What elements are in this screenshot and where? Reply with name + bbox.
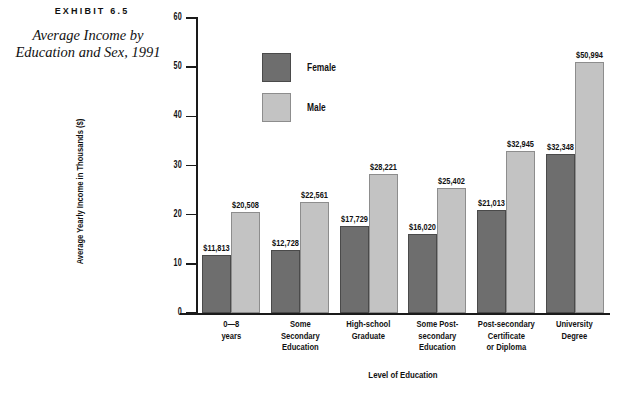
bar-value-label: $25,402: [432, 175, 472, 186]
bar-value-label: $22,561: [295, 189, 335, 200]
bar-value-label: $32,945: [501, 138, 541, 149]
bar-female-2: [271, 250, 300, 313]
legend-label: Male: [307, 101, 326, 113]
x-axis-category-label: SomeSecondaryEducation: [261, 318, 338, 353]
bar-male-3: [369, 174, 398, 313]
y-axis-tick-label: 0: [163, 306, 182, 317]
y-axis-tick: [186, 116, 197, 118]
legend-label: Female: [307, 61, 336, 73]
bar-female-3: [340, 226, 369, 313]
y-axis-tick-label: 30: [163, 159, 182, 170]
legend-swatch-male: [262, 93, 291, 122]
legend-item-female: Female: [262, 52, 343, 82]
x-axis-category-label: Some Post-secondaryEducation: [399, 318, 476, 353]
y-axis-tick-label: 10: [163, 257, 182, 268]
bar-value-label: $28,221: [363, 161, 403, 172]
x-axis-title: Level of Education: [234, 369, 572, 380]
y-axis-tick: [186, 312, 197, 314]
x-axis-line: [180, 313, 610, 315]
legend-item-male: Male: [262, 92, 343, 122]
y-axis-tick: [186, 263, 197, 265]
y-axis-tick: [186, 214, 197, 216]
bar-male-1: [231, 212, 260, 313]
bar-male-6: [575, 62, 604, 313]
bar-female-4: [408, 234, 437, 313]
bar-chart: 0102030405060 Average Yearly Income in T…: [0, 0, 624, 396]
plot-area: $11,813$20,508$12,728$22,561$17,729$28,2…: [197, 18, 609, 313]
y-axis-tick-label: 40: [163, 109, 182, 120]
x-axis-category-label: UniversityDegree: [536, 318, 613, 341]
x-axis-category-label: Post-secondaryCertificateor Diploma: [467, 318, 544, 353]
legend-swatch-female: [262, 53, 291, 82]
x-axis-category-label: 0—8years: [193, 318, 270, 341]
y-axis-title: Average Yearly Income in Thousands ($): [74, 112, 85, 272]
y-axis-tick-label: 20: [163, 208, 182, 219]
bar-female-1: [202, 255, 231, 313]
y-axis-tick-label: 50: [163, 60, 182, 71]
bar-female-6: [546, 154, 575, 313]
bar-value-label: $20,508: [226, 199, 266, 210]
bar-male-5: [506, 151, 535, 313]
chart-legend: FemaleMale: [262, 52, 343, 132]
y-axis-tick-label: 60: [163, 11, 182, 22]
bar-male-4: [437, 188, 466, 313]
bar-value-label: $50,994: [569, 49, 609, 60]
y-axis-tick: [186, 165, 197, 167]
y-axis-tick: [186, 66, 197, 68]
y-axis-tick: [186, 17, 197, 19]
bar-male-2: [300, 202, 329, 313]
x-axis-category-label: High-schoolGraduate: [330, 318, 407, 341]
bar-female-5: [477, 210, 506, 313]
